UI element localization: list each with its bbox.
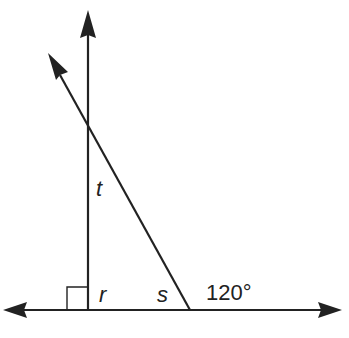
up-left-arrowhead-icon bbox=[48, 53, 68, 80]
horizontal-line bbox=[3, 302, 342, 318]
right-arrowhead-icon bbox=[318, 302, 342, 318]
geometry-diagram: t r s 120° bbox=[0, 0, 349, 338]
angle-value-label: 120° bbox=[206, 280, 252, 305]
right-angle-marker bbox=[67, 287, 88, 310]
diagram-canvas: t r s 120° bbox=[0, 0, 349, 338]
label-r: r bbox=[99, 282, 108, 307]
vertical-ray bbox=[80, 10, 96, 310]
label-s: s bbox=[157, 282, 168, 307]
left-arrowhead-icon bbox=[3, 302, 27, 318]
label-t: t bbox=[96, 176, 103, 201]
transversal-ray bbox=[48, 53, 190, 310]
up-arrowhead-icon bbox=[80, 10, 96, 38]
